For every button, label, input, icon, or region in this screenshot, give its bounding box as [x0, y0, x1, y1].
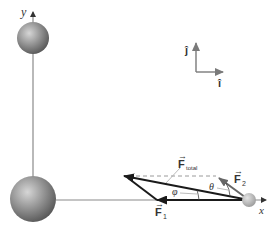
svg-text:1: 1 — [163, 213, 167, 220]
svg-text:2: 2 — [242, 180, 246, 187]
svg-text:→: → — [178, 151, 187, 161]
y-axis-label: y — [20, 5, 27, 19]
theta-leader — [217, 188, 228, 190]
phi-arc — [197, 190, 199, 200]
top-sphere — [17, 22, 49, 54]
theta-label: θ — [209, 181, 214, 192]
x-axis-label: x — [258, 204, 264, 216]
f2-label: F → 2 — [234, 166, 246, 187]
svg-text:total: total — [186, 165, 197, 171]
phi-label: φ — [172, 186, 178, 197]
svg-text:→: → — [155, 199, 164, 209]
ftotal-leader — [166, 168, 180, 183]
f1-label: F → 1 — [155, 199, 167, 220]
origin-sphere — [10, 176, 56, 222]
ftotal-label: F → total — [178, 151, 197, 171]
j-unit-label: ĵ — [184, 44, 189, 56]
svg-text:→: → — [234, 166, 243, 176]
force-diagram: y x ĵ î F → total F → 1 F → — [0, 0, 273, 232]
phi-leader — [180, 193, 197, 194]
i-unit-label: î — [217, 77, 222, 89]
unit-vectors: ĵ î — [184, 43, 223, 89]
small-sphere — [242, 193, 256, 207]
